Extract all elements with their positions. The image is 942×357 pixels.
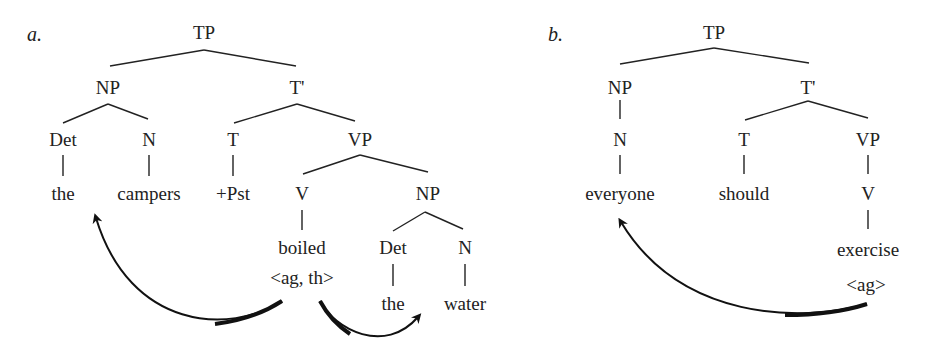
leaf-everyone: everyone — [585, 183, 655, 204]
node-tp: TP — [703, 22, 725, 43]
theta-grid-ag: <ag> — [846, 274, 885, 295]
agent-assignment-arrow — [621, 222, 867, 313]
node-np-object: NP — [416, 183, 440, 204]
tree-b-label: b. — [548, 23, 563, 45]
node-tp: TP — [193, 22, 215, 43]
tree-a: a. TP NP T' Det N T VP the campers +Pst … — [27, 22, 487, 336]
theta-grid-ag-th: <ag, th> — [270, 267, 334, 288]
leaf-the-object: the — [381, 293, 404, 314]
node-vp: VP — [856, 129, 880, 150]
tree-b: b. TP NP T' N T VP everyone should V exe… — [548, 22, 899, 315]
node-n: N — [613, 129, 627, 150]
leaf-pst: +Pst — [216, 183, 251, 204]
node-vp: VP — [348, 129, 372, 150]
node-t: T — [227, 129, 239, 150]
node-t: T — [738, 129, 750, 150]
node-v: V — [295, 183, 309, 204]
node-np: NP — [608, 77, 632, 98]
node-v: V — [861, 183, 875, 204]
node-tbar: T' — [800, 77, 815, 98]
syntax-tree-figure: a. TP NP T' Det N T VP the campers +Pst … — [0, 0, 942, 357]
node-tbar: T' — [289, 77, 304, 98]
leaf-campers: campers — [117, 183, 180, 204]
node-det-object: Det — [379, 237, 407, 258]
node-det: Det — [49, 129, 77, 150]
agent-assignment-arrow — [96, 218, 282, 319]
node-np: NP — [96, 77, 120, 98]
leaf-should: should — [719, 183, 770, 204]
leaf-boiled: boiled — [278, 237, 326, 258]
leaf-exercise: exercise — [837, 239, 899, 260]
leaf-the: the — [51, 183, 74, 204]
leaf-water: water — [444, 293, 487, 314]
node-n-object: N — [458, 237, 472, 258]
node-n: N — [142, 129, 156, 150]
tree-a-label: a. — [27, 23, 42, 45]
